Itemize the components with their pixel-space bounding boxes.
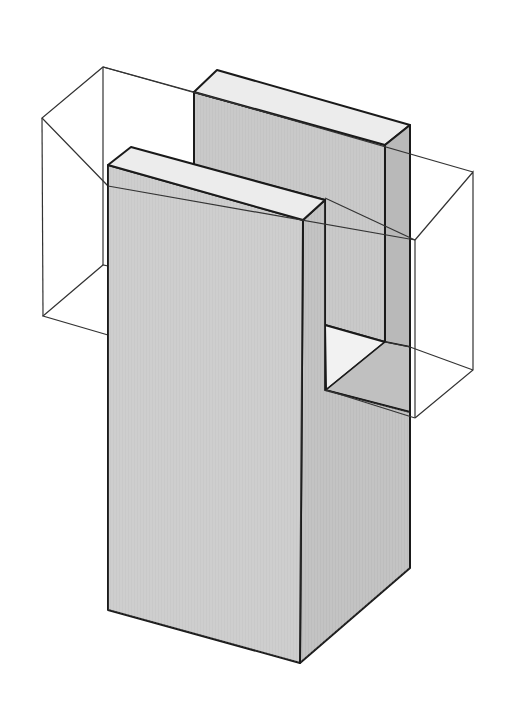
isometric-block-diagram [0, 0, 513, 701]
diagram-canvas: Isometric view of a U-shaped block with … [0, 0, 513, 701]
